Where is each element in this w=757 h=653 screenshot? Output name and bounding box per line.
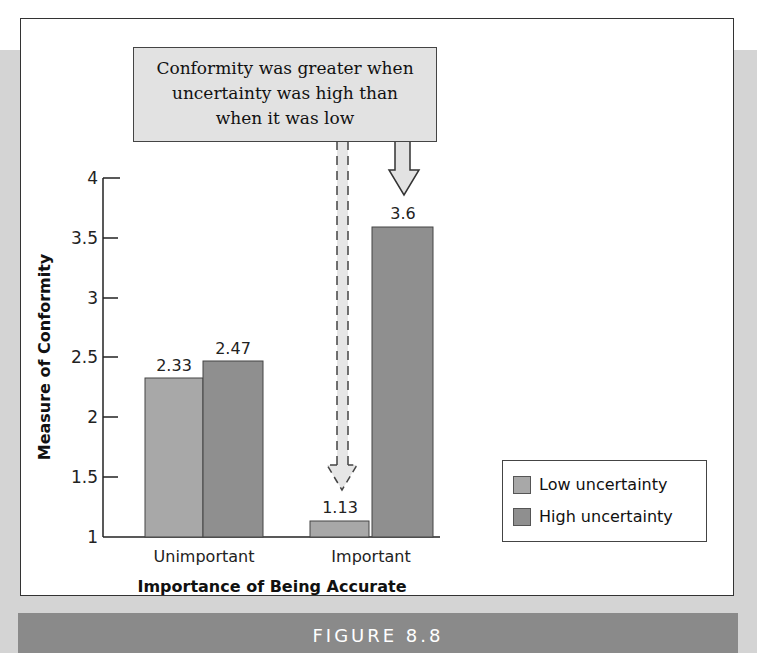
x-category-label: Important: [331, 547, 410, 566]
legend-item-high: High uncertainty: [513, 507, 673, 526]
annotation-line: Conformity was greater when: [134, 56, 436, 81]
x-axis-title: Importance of Being Accurate: [137, 577, 406, 596]
legend-item-low: Low uncertainty: [513, 475, 668, 494]
annotation-line: when it was low: [134, 106, 436, 131]
solid-arrow-icon: [389, 141, 419, 195]
y-axis-title: Measure of Conformity: [35, 253, 54, 460]
value-label: 3.6: [390, 204, 415, 223]
value-label: 2.33: [156, 356, 192, 375]
chart-legend: Low uncertainty High uncertainty: [502, 460, 707, 542]
figure-caption-bar: FIGURE 8.8: [18, 613, 738, 653]
value-label: 1.13: [322, 498, 358, 517]
y-tick-label: 2: [87, 407, 98, 427]
legend-swatch-icon: [513, 508, 531, 526]
y-tick-label: 3: [87, 288, 98, 308]
annotation-callout: Conformity was greater when uncertainty …: [133, 47, 437, 142]
legend-label: Low uncertainty: [539, 475, 668, 494]
legend-label: High uncertainty: [539, 507, 673, 526]
bar-important-low: [310, 521, 369, 537]
y-tick-label: 1.5: [71, 467, 98, 487]
y-tick-label: 4: [87, 168, 98, 188]
y-tick-label: 2.5: [71, 347, 98, 367]
bar-important-high: [372, 227, 433, 537]
y-tick-label: 3.5: [71, 228, 98, 248]
x-category-label: Unimportant: [154, 547, 255, 566]
annotation-line: uncertainty was high than: [134, 81, 436, 106]
y-ticks: [103, 178, 120, 477]
legend-swatch-icon: [513, 476, 531, 494]
y-tick-label: 1: [87, 527, 98, 547]
bar-unimportant-high: [203, 361, 263, 537]
value-label: 2.47: [215, 339, 251, 358]
figure-caption: FIGURE 8.8: [312, 625, 443, 646]
dashed-arrow-icon: [327, 141, 357, 490]
bar-unimportant-low: [145, 378, 203, 537]
